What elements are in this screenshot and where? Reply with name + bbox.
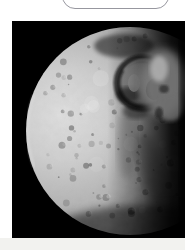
top-rounded-widget[interactable] <box>62 0 169 9</box>
moon-photo <box>12 21 185 238</box>
moon-photo-canvas <box>12 21 185 238</box>
page-footer-strip <box>0 238 185 250</box>
